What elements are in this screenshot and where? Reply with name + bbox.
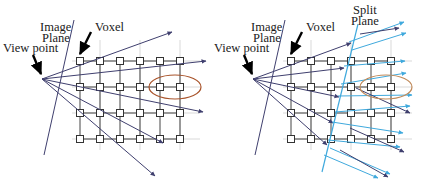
voxel-label-right: Voxel	[306, 20, 335, 34]
view-point-label-right: View point	[214, 41, 270, 55]
ray-casting-figure: Image Plane View point Voxel	[0, 0, 434, 186]
split-plane-label-line2: Plane	[351, 14, 379, 28]
figure-canvas: Image Plane View point Voxel	[0, 0, 434, 186]
voxel-label-left: Voxel	[95, 20, 124, 34]
view-point-label-left: View point	[3, 41, 59, 55]
